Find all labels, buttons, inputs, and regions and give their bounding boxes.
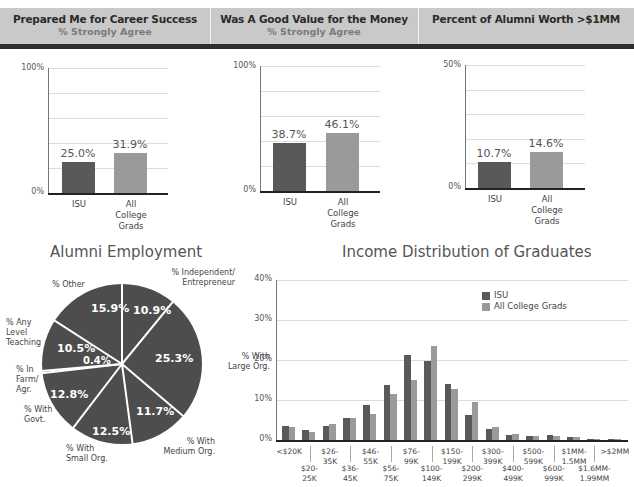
income-bar-all-college-grads — [614, 439, 621, 440]
income-x-label: $1.6MM-1.99MM — [574, 464, 614, 484]
y-tick-label: 30% — [242, 314, 272, 323]
income-bar-all-college-grads — [492, 427, 499, 440]
pie-slice-value: 12.5% — [92, 425, 130, 438]
pie-slice-label: % WithMedium Org. — [155, 437, 215, 457]
gridline — [276, 360, 628, 361]
bar-value-label: 14.6% — [516, 137, 576, 150]
header-panel-worth: Percent of Alumni Worth >$1MM — [418, 8, 634, 44]
income-bar-all-college-grads — [350, 418, 357, 440]
gridline — [465, 90, 585, 91]
y-axis — [276, 280, 277, 440]
x-label-all-college-grads: AllCollegeGrads — [522, 194, 572, 227]
income-x-label: $100-149K — [412, 464, 452, 484]
income-bar-all-college-grads — [329, 424, 336, 440]
pie-slice-label: % Independent/Entrepreneur — [150, 268, 235, 288]
panel-title: Percent of Alumni Worth >$1MM — [418, 13, 634, 25]
y-tick-label: 0% — [431, 182, 461, 191]
y-tick-label: 0% — [242, 434, 272, 443]
income-bar-all-college-grads — [411, 380, 418, 440]
x-axis — [276, 440, 628, 442]
legend-label-isu: ISU — [494, 290, 508, 300]
income-x-label: >$2MM — [595, 447, 634, 457]
gridline — [276, 280, 628, 281]
y-tick-label: 20% — [242, 354, 272, 363]
bar-value-label: 46.1% — [312, 118, 372, 131]
legend-swatch-isu — [482, 292, 490, 300]
x-label-all-college-grads: AllCollegeGrads — [318, 197, 368, 230]
pie-slice-label: % WithGovt. — [24, 405, 74, 425]
x-label-isu: ISU — [470, 194, 520, 205]
gridline — [465, 114, 585, 115]
income-bar-all-college-grads — [512, 434, 519, 440]
income-bar-all-college-grads — [370, 414, 377, 440]
bar-all-college-grads — [530, 152, 563, 188]
income-bar-all-college-grads — [289, 427, 296, 440]
gridline — [260, 91, 380, 92]
y-tick-label: 10% — [242, 394, 272, 403]
x-axis — [260, 191, 380, 193]
gridline — [260, 66, 380, 67]
gridline — [465, 65, 585, 66]
income-bar-all-college-grads — [472, 402, 479, 440]
bar-value-label: 38.7% — [259, 128, 319, 141]
pie-slice-value: 10.9% — [133, 304, 171, 317]
x-axis — [465, 188, 585, 190]
pie-slice-label: % WithSmall Org. — [66, 444, 126, 464]
bar-isu — [478, 162, 511, 188]
income-x-label: $200-299K — [452, 464, 492, 484]
income-chart-title: Income Distribution of Graduates — [342, 243, 592, 261]
income-bar-all-college-grads — [431, 346, 438, 440]
bar-value-label: 10.7% — [464, 147, 524, 160]
income-x-label: $600-999K — [534, 464, 574, 484]
income-x-label: $400-499K — [493, 464, 533, 484]
y-axis — [465, 65, 466, 188]
legend-label-all: All College Grads — [494, 301, 567, 311]
bar-isu — [273, 143, 306, 191]
income-x-label: <$20K — [269, 447, 309, 457]
income-bar-all-college-grads — [533, 436, 540, 440]
income-bar-all-college-grads — [594, 439, 601, 440]
bar-all-college-grads — [326, 133, 359, 191]
pie-slice-label: % InFarm/Agr. — [16, 365, 56, 395]
pie-slice-value: 11.7% — [136, 405, 174, 418]
y-tick-label: 40% — [242, 274, 272, 283]
income-bar-all-college-grads — [573, 437, 580, 440]
pie-slice-label: % Other — [52, 280, 102, 290]
legend-swatch-all — [482, 303, 490, 311]
pie-slice-value: 0.4% — [83, 355, 111, 366]
pie-slice-value: 10.5% — [57, 342, 95, 355]
pie-slice-value: 15.9% — [91, 302, 129, 315]
income-bar-all-college-grads — [309, 432, 316, 440]
gridline — [260, 116, 380, 117]
income-bar-all-college-grads — [451, 389, 458, 440]
income-x-label: $20-25K — [290, 464, 330, 484]
pie-slice-value: 25.3% — [155, 352, 193, 365]
x-label-isu: ISU — [265, 197, 315, 208]
income-x-label: $56-75K — [371, 464, 411, 484]
income-bar-all-college-grads — [553, 436, 560, 440]
income-bar-all-college-grads — [390, 394, 397, 440]
gridline — [276, 320, 628, 321]
pie-slice-label: % AnyLevelTeaching — [6, 318, 56, 348]
income-x-label: $36-45K — [330, 464, 370, 484]
y-tick-label: 50% — [431, 60, 461, 69]
